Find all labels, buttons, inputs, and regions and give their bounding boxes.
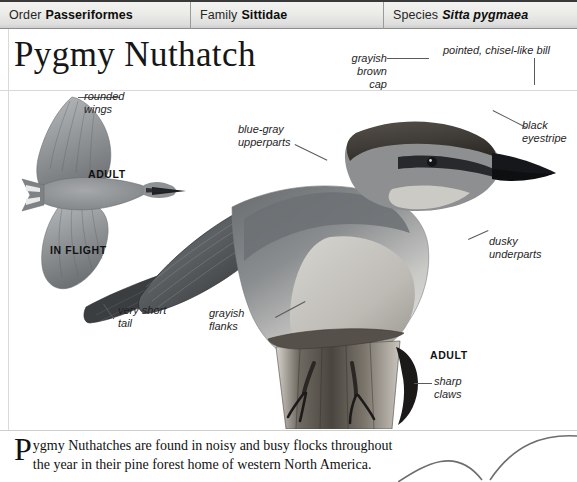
label-dusky-underparts: dusky underparts: [489, 235, 542, 261]
label-rounded-wings: rounded wings: [84, 90, 124, 116]
label-pointed-bill: pointed, chisel-like bill: [443, 44, 550, 57]
taxonomy-value-species: Sitta pygmaea: [442, 8, 528, 22]
label-grayish-brown-cap: grayish brown cap: [347, 52, 387, 91]
taxonomy-value-order: Passeriformes: [45, 8, 132, 22]
in-flight-illustration: [22, 97, 186, 289]
range-map-arc: [398, 430, 577, 482]
label-sharp-claws: sharp claws: [434, 375, 462, 401]
label-perched-adult: ADULT: [430, 349, 468, 361]
taxonomy-rank-order: Order: [9, 8, 41, 22]
bird-artwork-svg: [0, 29, 577, 429]
label-grayish-flanks: grayish flanks: [209, 307, 244, 333]
label-very-short-tail: very short tail: [118, 304, 166, 330]
leader-line-sharp-claws: [414, 383, 432, 384]
taxonomy-value-family: Sittidae: [241, 8, 287, 22]
taxonomy-cell-species: Species Sitta pygmaea: [383, 2, 577, 29]
label-black-eyestripe: black eyestripe: [522, 119, 567, 145]
illustration-area: [0, 29, 577, 429]
label-blue-gray-upperparts: blue-gray upperparts: [238, 123, 291, 149]
description-dropcap: P: [14, 436, 33, 462]
leader-line-grayish-brown-cap: [387, 58, 429, 59]
taxonomy-cell-order: Order Passeriformes: [0, 2, 190, 29]
taxonomy-rank-species: Species: [393, 8, 438, 22]
taxonomy-header-bar: Order Passeriformes Family Sittidae Spec…: [0, 2, 577, 29]
description-text: ygmy Nuthatches are found in noisy and b…: [33, 438, 393, 472]
label-in-flight-adult: ADULT: [88, 168, 126, 180]
taxonomy-cell-family: Family Sittidae: [190, 2, 383, 29]
taxonomy-rank-family: Family: [200, 8, 237, 22]
species-description: Pygmy Nuthatches are found in noisy and …: [14, 436, 410, 474]
field-guide-page: Order Passeriformes Family Sittidae Spec…: [0, 0, 577, 482]
label-in-flight: IN FLIGHT: [50, 244, 107, 256]
leader-line-pointed-bill: [534, 58, 535, 85]
perched-bird-illustration: [84, 122, 556, 429]
